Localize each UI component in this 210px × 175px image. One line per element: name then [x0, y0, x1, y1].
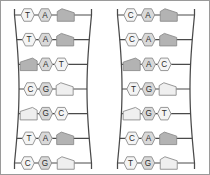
sugar-pentagon[interactable]	[56, 83, 73, 96]
base-hexagon-A[interactable]	[38, 9, 52, 22]
base-pair-rung[interactable]: CA	[124, 9, 177, 22]
base-pair-rung[interactable]: GC	[20, 107, 68, 120]
base-hexagon-C[interactable]	[55, 107, 69, 120]
right-rail	[87, 9, 92, 169]
base-hexagon-G[interactable]	[142, 83, 156, 96]
base-hexagon-C[interactable]	[125, 33, 139, 46]
base-hexagon-G[interactable]	[141, 157, 155, 170]
base-pair-rung[interactable]: AC	[123, 58, 171, 71]
base-hexagon-A[interactable]	[39, 58, 53, 71]
base-pair-rung[interactable]: TG	[127, 83, 176, 96]
sugar-pentagon[interactable]	[20, 58, 37, 71]
sugar-pentagon[interactable]	[160, 132, 177, 145]
left-rail	[118, 9, 123, 169]
sugar-pentagon[interactable]	[160, 33, 177, 46]
diagram-frame: TATAATCGGCTACG CACAACTGGTCATG	[0, 0, 210, 175]
sugar-pentagon[interactable]	[123, 107, 140, 120]
sugar-pentagon[interactable]	[20, 107, 37, 120]
left-ladder: TATAATCGGCTACG	[1, 1, 106, 175]
base-hexagon-G[interactable]	[39, 107, 53, 120]
base-hexagon-T[interactable]	[127, 83, 141, 96]
base-hexagon-T[interactable]	[124, 157, 138, 170]
base-hexagon-C[interactable]	[158, 58, 172, 71]
sugar-pentagon[interactable]	[159, 83, 176, 96]
base-hexagon-C[interactable]	[21, 157, 35, 170]
base-hexagon-A[interactable]	[142, 58, 156, 71]
base-hexagon-T[interactable]	[22, 132, 36, 145]
right-ladder: CACAACTGGTCATG	[104, 1, 209, 175]
base-pair-rung[interactable]: CG	[21, 157, 74, 170]
sugar-pentagon[interactable]	[57, 132, 74, 145]
base-pair-rung[interactable]: TG	[124, 157, 177, 170]
base-hexagon-G[interactable]	[142, 107, 156, 120]
base-hexagon-A[interactable]	[142, 33, 156, 46]
base-hexagon-T[interactable]	[158, 107, 172, 120]
base-hexagon-T[interactable]	[21, 9, 35, 22]
base-hexagon-G[interactable]	[38, 157, 52, 170]
base-hexagon-T[interactable]	[55, 58, 69, 71]
sugar-pentagon[interactable]	[57, 157, 74, 170]
right-rail	[190, 9, 195, 169]
base-hexagon-A[interactable]	[39, 132, 53, 145]
base-hexagon-C[interactable]	[24, 83, 38, 96]
base-hexagon-T[interactable]	[22, 33, 36, 46]
base-pair-rung[interactable]: TA	[22, 33, 73, 46]
base-pair-rung[interactable]: TA	[22, 132, 73, 145]
sugar-pentagon[interactable]	[123, 58, 140, 71]
base-pair-rung[interactable]: AT	[20, 58, 68, 71]
sugar-pentagon[interactable]	[57, 33, 74, 46]
left-rail	[15, 9, 20, 169]
base-hexagon-C[interactable]	[124, 9, 138, 22]
sugar-pentagon[interactable]	[160, 157, 177, 170]
base-pair-rung[interactable]: CA	[125, 132, 176, 145]
base-hexagon-C[interactable]	[125, 132, 139, 145]
base-hexagon-A[interactable]	[141, 9, 155, 22]
base-hexagon-G[interactable]	[39, 83, 53, 96]
base-pair-rung[interactable]: TA	[21, 9, 74, 22]
base-hexagon-A[interactable]	[39, 33, 53, 46]
sugar-pentagon[interactable]	[160, 9, 177, 22]
base-pair-rung[interactable]: CG	[24, 83, 73, 96]
base-hexagon-A[interactable]	[142, 132, 156, 145]
base-pair-rung[interactable]: CA	[125, 33, 176, 46]
base-pair-rung[interactable]: GT	[123, 107, 171, 120]
sugar-pentagon[interactable]	[57, 9, 74, 22]
